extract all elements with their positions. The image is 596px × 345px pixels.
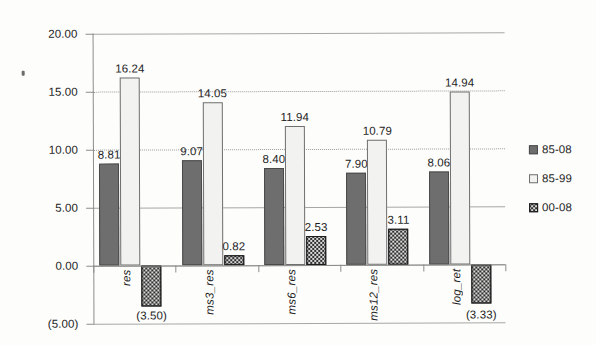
bar-ms12_res-85-99 bbox=[367, 140, 387, 265]
bar-ms6_res-85-99 bbox=[285, 126, 305, 265]
legend-item-85-99[interactable]: 85-99 bbox=[529, 171, 572, 185]
category-label-ms3_res: ms3_res bbox=[203, 269, 215, 315]
y-tick-label: 20.00 bbox=[8, 28, 78, 40]
y-tick-label: 5.00 bbox=[8, 202, 78, 214]
series-1-swatch bbox=[529, 174, 538, 183]
bar-log_ret-00-08 bbox=[471, 264, 491, 303]
value-label-log_ret-00-08: (3.33) bbox=[466, 308, 497, 320]
series-2-swatch bbox=[529, 203, 538, 212]
bar-ms3_res-00-08 bbox=[224, 256, 244, 266]
chart-scan-canvas: 20.0015.0010.005.000.00(5.00) 8.8116.24(… bbox=[0, 0, 596, 345]
category-label-ms6_res: ms6_res bbox=[285, 269, 297, 315]
bar-ms12_res-85-08 bbox=[346, 173, 366, 265]
y-tick-label: 0.00 bbox=[8, 260, 78, 272]
value-label-res-85-08: 8.81 bbox=[98, 148, 121, 160]
zero-baseline bbox=[93, 264, 505, 266]
value-label-ms6_res-85-08: 8.40 bbox=[263, 153, 286, 165]
x-axis-category-labels: resms3_resms6_resms12_reslog_ret bbox=[0, 0, 595, 1]
bar-res-85-99 bbox=[120, 77, 141, 265]
value-label-ms12_res-00-08: 3.11 bbox=[388, 214, 410, 226]
bar-series-layer: 8.8116.24(3.50)9.0714.050.828.4011.942.5… bbox=[0, 0, 595, 1]
x-tick-mark bbox=[93, 266, 94, 273]
y-tick-label: 10.00 bbox=[8, 144, 78, 156]
value-label-ms12_res-85-99: 10.79 bbox=[363, 125, 392, 137]
bar-ms3_res-85-99 bbox=[202, 102, 223, 265]
value-label-ms3_res-00-08: 0.82 bbox=[222, 241, 245, 253]
gridline-20.00 bbox=[93, 32, 505, 34]
value-label-res-85-99: 16.24 bbox=[115, 62, 144, 74]
x-tick-mark bbox=[340, 265, 341, 272]
y-axis-tick-labels: 20.0015.0010.005.000.00(5.00) bbox=[0, 0, 595, 1]
x-tick-mark bbox=[258, 265, 259, 272]
series-0-swatch bbox=[529, 145, 538, 154]
legend-item-00-08[interactable]: 00-08 bbox=[529, 200, 572, 214]
value-label-log_ret-85-99: 14.94 bbox=[445, 76, 474, 88]
bar-res-85-08 bbox=[99, 163, 119, 265]
bar-log_ret-85-99 bbox=[450, 91, 471, 264]
y-axis-line bbox=[93, 34, 95, 324]
value-label-ms12_res-85-08: 7.90 bbox=[345, 158, 368, 170]
value-label-ms6_res-85-99: 11.94 bbox=[281, 111, 309, 123]
y-tick-label: 15.00 bbox=[8, 86, 78, 98]
x-tick-mark bbox=[505, 264, 506, 271]
bar-log_ret-85-08 bbox=[429, 171, 449, 265]
category-label-log_ret: log_ret bbox=[450, 268, 462, 305]
value-label-ms6_res-00-08: 2.53 bbox=[305, 221, 328, 233]
bar-ms6_res-00-08 bbox=[306, 236, 326, 265]
value-label-ms3_res-85-99: 14.05 bbox=[198, 87, 227, 99]
x-axis-line bbox=[0, 0, 595, 1]
bar-ms6_res-85-08 bbox=[264, 168, 284, 265]
y-tick-label: (5.00) bbox=[8, 318, 78, 330]
category-label-ms12_res: ms12_res bbox=[368, 269, 380, 321]
value-label-ms3_res-85-08: 9.07 bbox=[180, 145, 203, 157]
y-tick-mark bbox=[86, 324, 94, 325]
scan-speck-artifact bbox=[22, 71, 25, 76]
legend-label: 85-99 bbox=[542, 172, 572, 184]
legend-item-85-08[interactable]: 85-08 bbox=[529, 142, 572, 156]
y-gridlines bbox=[0, 0, 595, 1]
legend-label: 00-08 bbox=[542, 201, 572, 213]
category-label-res: res bbox=[120, 270, 132, 287]
x-tick-mark bbox=[423, 265, 424, 272]
bar-res-00-08 bbox=[141, 265, 161, 306]
chart-legend: 85-0885-9900-08 bbox=[529, 142, 572, 229]
legend-label: 85-08 bbox=[542, 143, 572, 155]
value-label-log_ret-85-08: 8.06 bbox=[427, 156, 450, 168]
gridline-15.00 bbox=[93, 90, 505, 92]
bar-ms3_res-85-08 bbox=[182, 160, 202, 265]
bar-ms12_res-00-08 bbox=[389, 229, 409, 265]
x-tick-mark bbox=[176, 265, 177, 272]
gridline-(5.00) bbox=[93, 322, 505, 324]
value-label-res-00-08: (3.50) bbox=[136, 309, 167, 321]
